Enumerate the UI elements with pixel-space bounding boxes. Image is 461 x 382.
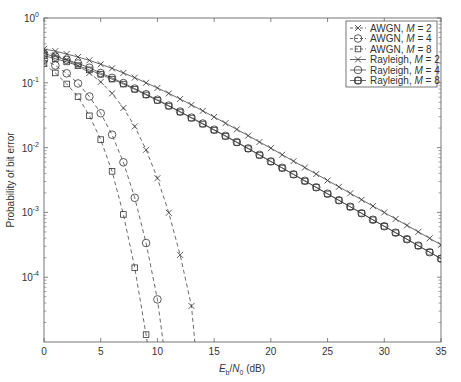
y-tick-label: 10-3: [22, 205, 39, 218]
legend-label: AWGN, M = 8: [370, 44, 432, 55]
y-tick-label: 10-2: [22, 141, 39, 154]
legend-label: AWGN, M = 2: [370, 23, 432, 34]
x-axis-label: Eb/N0 (dB): [219, 363, 265, 376]
x-tick-label: 20: [265, 346, 277, 357]
x-tick-label: 5: [98, 346, 104, 357]
chart-figure: 0510152025303510010-110-210-310-4 AWGN, …: [0, 0, 461, 382]
x-tick-label: 0: [41, 346, 47, 357]
legend-label: Rayleigh, M = 8: [370, 75, 440, 86]
y-tick-label: 10-1: [22, 76, 39, 89]
y-tick-label: 10-4: [22, 270, 39, 283]
x-tick-label: 25: [322, 346, 334, 357]
legend: AWGN, M = 2AWGN, M = 4AWGN, M = 8Rayleig…: [346, 21, 440, 87]
x-tick-label: 35: [435, 346, 447, 357]
x-tick-label: 30: [379, 346, 391, 357]
legend-label: AWGN, M = 4: [370, 33, 432, 44]
legend-label: Rayleigh, M = 2: [370, 54, 440, 65]
y-tick-label: 100: [24, 11, 39, 24]
x-tick-label: 15: [209, 346, 221, 357]
legend-label: Rayleigh, M = 4: [370, 65, 440, 76]
x-tick-label: 10: [152, 346, 164, 357]
y-axis-label: Probability of bit error: [5, 132, 16, 228]
